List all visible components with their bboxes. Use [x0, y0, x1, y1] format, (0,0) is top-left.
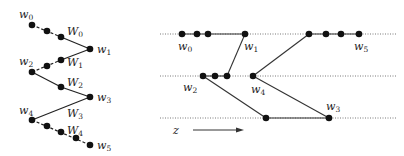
- node-w2: [200, 73, 207, 80]
- label-w0: w0: [19, 8, 33, 22]
- node: [205, 31, 212, 38]
- node: [58, 57, 65, 64]
- node-w1: [87, 46, 94, 53]
- label-w4: w4: [251, 83, 265, 97]
- node: [338, 31, 345, 38]
- node-w5: [87, 142, 94, 149]
- node: [263, 115, 270, 122]
- label-w0: w0: [178, 40, 192, 54]
- edge-w4-up: [253, 34, 309, 76]
- node: [44, 123, 51, 130]
- node: [224, 73, 231, 80]
- label-w1: w1: [97, 43, 111, 57]
- node-w3: [326, 115, 333, 122]
- right-diagram: w0 w1 w5 w2 w4 w3 z: [160, 31, 396, 137]
- node: [212, 73, 219, 80]
- node: [58, 34, 65, 41]
- label-w3: w3: [97, 91, 111, 105]
- figure-canvas: w0 W0 w1 w2 W1 W2 w3 w4 W3 W4 w5: [0, 0, 404, 156]
- node-w5: [356, 31, 363, 38]
- label-W1: W1: [67, 56, 83, 70]
- node-w1: [242, 31, 249, 38]
- node-w4: [250, 73, 257, 80]
- node-w0: [179, 31, 186, 38]
- label-w5: w5: [354, 40, 368, 54]
- label-W3: W3: [67, 107, 83, 121]
- label-w2: w2: [19, 55, 33, 69]
- arrow-right-icon: [236, 128, 244, 133]
- axis-label-z: z: [172, 124, 179, 137]
- edge-to-w1: [227, 34, 245, 76]
- node: [44, 28, 51, 35]
- node-w0: [29, 22, 36, 29]
- edge-w4-down: [253, 76, 329, 118]
- node: [58, 129, 65, 136]
- node: [44, 63, 51, 70]
- label-w1: w1: [244, 40, 258, 54]
- node-w3: [87, 94, 94, 101]
- node: [323, 31, 330, 38]
- label-W4: W4: [67, 124, 83, 138]
- node-w2: [29, 69, 36, 76]
- node: [194, 31, 201, 38]
- label-W0: W0: [67, 25, 83, 39]
- node: [306, 31, 313, 38]
- label-w2: w2: [183, 81, 197, 95]
- label-W2: W2: [67, 76, 83, 90]
- label-w3: w3: [326, 100, 340, 114]
- label-w5: w5: [97, 139, 111, 153]
- edge-w2-down: [32, 72, 61, 87]
- node: [58, 84, 65, 91]
- left-diagram: w0 W0 w1 w2 W1 W2 w3 w4 W3 W4 w5: [19, 8, 111, 153]
- label-w4: w4: [19, 104, 33, 118]
- edge-W0: [61, 37, 90, 49]
